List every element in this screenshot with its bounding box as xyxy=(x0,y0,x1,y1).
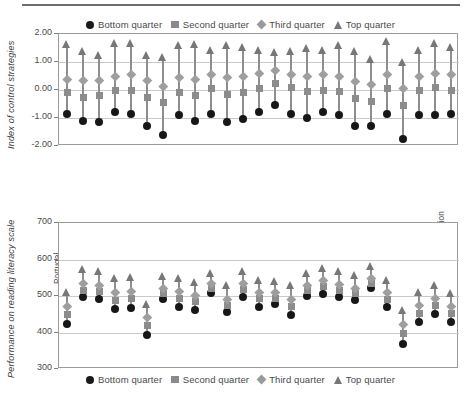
data-point-triangle xyxy=(206,46,214,54)
legend-label: Second quarter xyxy=(183,374,249,385)
data-point-circle xyxy=(287,311,295,319)
data-point-triangle xyxy=(446,43,454,51)
data-point-triangle xyxy=(414,46,422,54)
legend-item-bottom-quarter: Bottom quarter xyxy=(86,374,162,385)
data-point-circle xyxy=(95,295,103,303)
data-point-triangle xyxy=(222,281,230,289)
data-point-triangle xyxy=(398,58,406,66)
data-point-triangle xyxy=(110,274,118,282)
connector-line xyxy=(194,48,195,121)
data-point-triangle xyxy=(446,289,454,297)
data-point-circle xyxy=(223,118,231,126)
data-point-triangle xyxy=(174,41,182,49)
data-point-diamond xyxy=(62,302,71,311)
legend-item-top-quarter: Top quarter xyxy=(334,374,395,385)
legend-label: Third quarter xyxy=(269,19,325,30)
data-point-triangle xyxy=(94,267,102,275)
data-point-triangle xyxy=(398,306,406,314)
data-point-circle xyxy=(447,110,455,118)
legend-label: Second quarter xyxy=(183,19,249,30)
data-point-circle xyxy=(303,114,311,122)
data-point-diamond xyxy=(366,80,375,89)
square-marker-icon xyxy=(171,21,179,29)
data-point-square xyxy=(80,94,87,101)
data-point-circle xyxy=(111,305,119,313)
connector-line xyxy=(178,49,179,115)
connector-line xyxy=(338,49,339,115)
data-point-triangle xyxy=(190,278,198,286)
data-point-triangle xyxy=(190,40,198,48)
connector-line xyxy=(226,49,227,122)
data-point-triangle xyxy=(254,276,262,284)
data-point-diamond xyxy=(334,71,343,80)
data-point-triangle xyxy=(366,262,374,270)
connector-line xyxy=(370,63,371,126)
data-point-circle xyxy=(111,108,119,116)
data-point-triangle xyxy=(270,277,278,285)
data-point-square xyxy=(336,88,343,95)
circle-marker-icon xyxy=(86,376,94,384)
data-point-circle xyxy=(415,318,423,326)
data-point-triangle xyxy=(366,55,374,63)
data-point-circle xyxy=(127,304,135,312)
legend-label: Bottom quarter xyxy=(98,374,162,385)
data-point-circle xyxy=(287,110,295,118)
connector-line xyxy=(82,55,83,121)
data-point-square xyxy=(160,99,167,106)
data-point-circle xyxy=(63,320,71,328)
data-point-triangle xyxy=(430,39,438,47)
legend-label: Top quarter xyxy=(346,374,395,385)
data-point-triangle xyxy=(62,288,70,296)
connector-line xyxy=(322,54,323,113)
connector-line xyxy=(418,54,419,116)
data-point-triangle xyxy=(142,51,150,59)
data-point-diamond xyxy=(398,320,407,329)
data-point-circle xyxy=(399,340,407,348)
legend-item-second-quarter: Second quarter xyxy=(171,374,249,385)
data-point-square xyxy=(304,88,311,95)
data-point-triangle xyxy=(350,271,358,279)
data-point-circle xyxy=(191,117,199,125)
data-point-triangle xyxy=(142,300,150,308)
data-point-diamond xyxy=(174,73,183,82)
diamond-marker-icon xyxy=(257,20,267,30)
data-point-square xyxy=(272,80,279,87)
data-point-triangle xyxy=(350,47,358,55)
data-point-square xyxy=(288,84,295,91)
data-point-diamond xyxy=(78,76,87,85)
data-point-diamond xyxy=(126,70,135,79)
data-point-circle xyxy=(239,293,247,301)
legend-item-top-quarter: Top quarter xyxy=(334,19,395,30)
data-point-triangle xyxy=(318,46,326,54)
data-point-diamond xyxy=(382,70,391,79)
data-point-diamond xyxy=(238,71,247,80)
data-point-square xyxy=(144,322,151,329)
data-point-circle xyxy=(239,115,247,123)
data-point-diamond xyxy=(318,70,327,79)
data-point-square xyxy=(128,295,135,302)
data-point-circle xyxy=(143,331,151,339)
y-axis-tick-label: 2.00 xyxy=(10,27,52,37)
plot-area-top xyxy=(58,33,458,145)
data-point-circle xyxy=(143,122,151,130)
data-point-diamond xyxy=(110,71,119,80)
y-axis-tickmark xyxy=(54,368,58,369)
data-point-square xyxy=(368,98,375,105)
connector-line xyxy=(98,59,99,122)
legend-label: Bottom quarter xyxy=(98,19,162,30)
data-point-triangle xyxy=(238,43,246,51)
data-point-square xyxy=(256,85,263,92)
data-point-triangle xyxy=(126,39,134,47)
data-point-circle xyxy=(399,135,407,143)
data-point-triangle xyxy=(238,267,246,275)
data-point-square xyxy=(400,330,407,337)
legend-item-second-quarter: Second quarter xyxy=(171,19,249,30)
data-point-triangle xyxy=(78,265,86,273)
triangle-marker-icon xyxy=(334,21,342,29)
top-divider-rule xyxy=(22,4,460,6)
plot-area-bottom xyxy=(58,222,458,368)
data-point-circle xyxy=(79,117,87,125)
data-point-circle xyxy=(271,101,279,109)
square-marker-icon xyxy=(171,376,179,384)
connector-line xyxy=(354,55,355,126)
